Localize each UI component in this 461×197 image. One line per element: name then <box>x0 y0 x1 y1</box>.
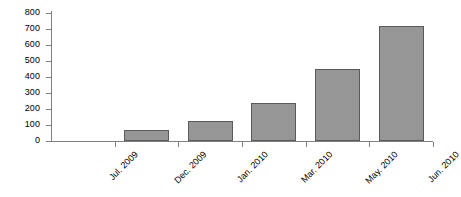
x-axis-tick <box>369 142 370 147</box>
x-axis-tick <box>115 142 116 147</box>
bar <box>188 121 233 141</box>
x-axis-tick <box>178 142 179 147</box>
bar <box>124 130 169 141</box>
bar <box>315 69 360 141</box>
x-axis-tick <box>306 142 307 147</box>
x-axis-tick <box>242 142 243 147</box>
bar <box>251 103 296 141</box>
x-axis-tick <box>433 142 434 147</box>
bar <box>379 26 424 141</box>
